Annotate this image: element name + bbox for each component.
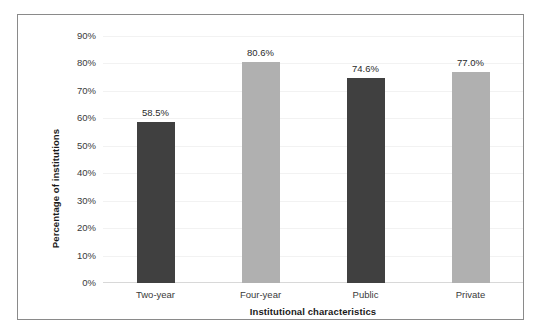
y-axis-tick-label: 40% (36, 168, 96, 178)
x-axis-category-label: Four-year (208, 289, 313, 300)
y-axis-tick-label: 0% (36, 278, 96, 288)
bar[interactable] (137, 122, 175, 283)
bar-group: 77.0%Private (418, 36, 523, 283)
y-axis-tick-label: 30% (36, 196, 96, 206)
bar-value-label: 77.0% (426, 57, 516, 68)
y-axis-tick-label: 80% (36, 58, 96, 68)
bar[interactable] (347, 78, 385, 283)
bar[interactable] (452, 72, 490, 283)
x-axis-title: Institutional characteristics (108, 306, 518, 317)
bar-chart-figure: Percentage of institutions 90%80%70%60%5… (0, 0, 545, 335)
y-axis-tick-label: 50% (36, 141, 96, 151)
bar-value-label: 58.5% (111, 107, 201, 118)
bar-group: 58.5%Two-year (103, 36, 208, 283)
y-axis-tick-label: 20% (36, 223, 96, 233)
y-axis-tick-label: 90% (36, 31, 96, 41)
bar-value-label: 74.6% (321, 63, 411, 74)
bar-group: 74.6%Public (313, 36, 418, 283)
plot-area: 58.5%Two-year80.6%Four-year74.6%Public77… (103, 36, 523, 283)
y-axis-tick-labels: 90%80%70%60%50%40%30%20%10%0% (36, 36, 96, 283)
bar-value-label: 80.6% (216, 47, 306, 58)
bar-group: 80.6%Four-year (208, 36, 313, 283)
y-axis-tick-label: 70% (36, 86, 96, 96)
y-axis-tick-label: 60% (36, 113, 96, 123)
x-axis-category-label: Public (313, 289, 418, 300)
x-axis-category-label: Two-year (103, 289, 208, 300)
chart-frame: Percentage of institutions 90%80%70%60%5… (17, 14, 524, 320)
x-axis-category-label: Private (418, 289, 523, 300)
bar[interactable] (242, 62, 280, 283)
y-axis-tick-label: 10% (36, 251, 96, 261)
